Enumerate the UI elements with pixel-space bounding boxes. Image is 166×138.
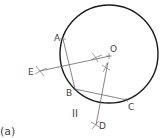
label-e: E bbox=[28, 67, 34, 77]
bisector-e bbox=[40, 56, 110, 71]
geometry-diagram: A B C D E O II (a) bbox=[0, 0, 166, 138]
label-b: B bbox=[66, 88, 72, 98]
label-o: O bbox=[110, 44, 117, 54]
label-region-ii: II bbox=[72, 108, 78, 119]
figure-label: (a) bbox=[0, 125, 15, 138]
label-d: D bbox=[99, 121, 106, 131]
label-c: C bbox=[128, 102, 134, 112]
label-a: A bbox=[54, 33, 61, 43]
diagram-svg: A B C D E O II (a) bbox=[0, 0, 166, 138]
